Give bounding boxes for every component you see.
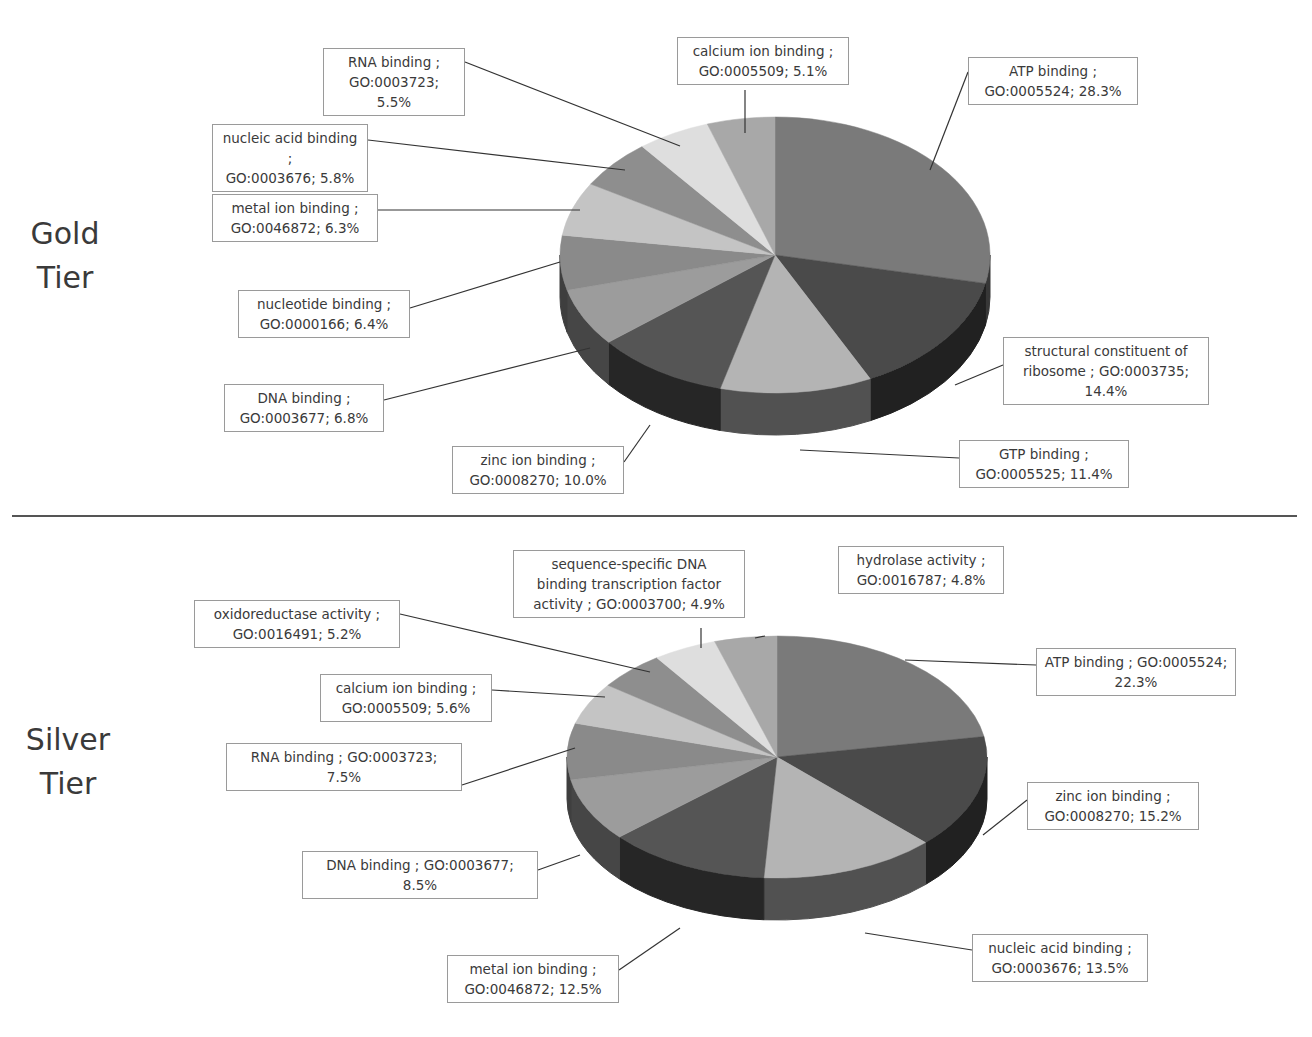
gold-pie	[368, 62, 1003, 462]
gold-callout-atp-binding: ATP binding ; GO:0005524; 28.3%	[968, 57, 1138, 105]
silver-callout-oxidoreductase-activity: oxidoreductase activity ; GO:0016491; 5.…	[194, 600, 400, 648]
pie-charts-canvas	[0, 0, 1312, 1037]
silver-callout-atp-binding: ATP binding ; GO:0005524; 22.3%	[1036, 648, 1236, 696]
gold-callout-dna-binding: DNA binding ; GO:0003677; 6.8%	[224, 384, 384, 432]
gold-callout-nucleic-acid-binding: nucleic acid binding ; GO:0003676; 5.8%	[212, 124, 368, 192]
gold-callout-zinc-ion-binding: zinc ion binding ; GO:0008270; 10.0%	[452, 446, 624, 494]
silver-pie	[400, 614, 1036, 970]
gold-callout-nucleotide-binding: nucleotide binding ; GO:0000166; 6.4%	[238, 290, 410, 338]
silver-callout-dna-binding: DNA binding ; GO:0003677; 8.5%	[302, 851, 538, 899]
silver-callout-rna-binding: RNA binding ; GO:0003723; 7.5%	[226, 743, 462, 791]
silver-callout-nucleic-acid-binding: nucleic acid binding ; GO:0003676; 13.5%	[972, 934, 1148, 982]
gold-callout-calcium-ion-binding: calcium ion binding ; GO:0005509; 5.1%	[677, 37, 849, 85]
silver-callout-zinc-ion-binding: zinc ion binding ; GO:0008270; 15.2%	[1027, 782, 1199, 830]
gold-callout-rna-binding: RNA binding ; GO:0003723; 5.5%	[323, 48, 465, 116]
silver-callout-seq-specific-dna-binding-tf: sequence-specific DNA binding transcript…	[513, 550, 745, 618]
gold-callout-metal-ion-binding: metal ion binding ; GO:0046872; 6.3%	[212, 194, 378, 242]
silver-callout-metal-ion-binding: metal ion binding ; GO:0046872; 12.5%	[447, 955, 619, 1003]
silver-callout-hydrolase-activity: hydrolase activity ; GO:0016787; 4.8%	[838, 546, 1004, 594]
gold-callout-structural-ribosome: structural constituent of ribosome ; GO:…	[1003, 337, 1209, 405]
gold-callout-gtp-binding: GTP binding ; GO:0005525; 11.4%	[959, 440, 1129, 488]
silver-callout-calcium-ion-binding: calcium ion binding ; GO:0005509; 5.6%	[320, 674, 492, 722]
